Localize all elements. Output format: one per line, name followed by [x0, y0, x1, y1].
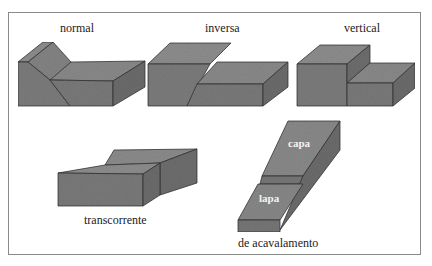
normal-fault-block — [18, 42, 145, 106]
label-acavalamento: de acavalamento — [238, 236, 318, 251]
label-capa: capa — [288, 137, 310, 149]
transcorrente-fault-block — [58, 149, 197, 206]
vertical-fault-block — [297, 45, 415, 106]
label-lapa: lapa — [259, 192, 279, 204]
label-normal: normal — [60, 21, 94, 36]
inversa-fault-block — [148, 43, 288, 106]
label-inversa: inversa — [205, 21, 240, 36]
fault-diagrams — [0, 0, 432, 266]
label-vertical: vertical — [344, 21, 380, 36]
label-transcorrente: transcorrente — [84, 213, 147, 228]
